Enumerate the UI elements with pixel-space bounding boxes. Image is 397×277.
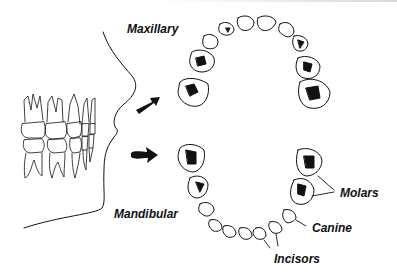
label-mandibular: Mandibular bbox=[114, 207, 178, 221]
arrow-right-icon bbox=[131, 147, 158, 163]
arrow-right-up-icon bbox=[136, 97, 160, 114]
label-canine: Canine bbox=[312, 221, 352, 235]
diagram-artwork bbox=[0, 0, 397, 277]
dental-arch-diagram: Maxillary Mandibular Molars Canine Incis… bbox=[0, 0, 397, 277]
mandibular-arch bbox=[178, 144, 322, 239]
lateral-teeth-icon bbox=[21, 94, 95, 178]
maxillary-arch bbox=[178, 16, 330, 108]
label-incisors: Incisors bbox=[274, 252, 320, 266]
facial-profile bbox=[24, 32, 136, 228]
label-molars: Molars bbox=[340, 186, 379, 200]
label-maxillary: Maxillary bbox=[127, 22, 178, 36]
